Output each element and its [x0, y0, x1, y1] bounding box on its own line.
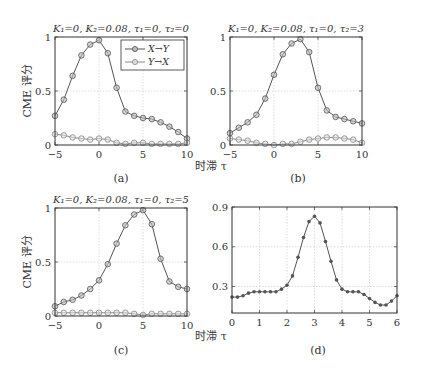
- data-point: [262, 141, 268, 147]
- xtick-label: 3: [311, 317, 317, 328]
- data-point: [390, 299, 394, 303]
- data-point: [291, 274, 295, 278]
- data-point: [384, 303, 388, 307]
- data-point: [149, 221, 155, 227]
- data-point: [70, 310, 76, 316]
- data-point: [158, 120, 164, 126]
- data-point: [306, 137, 312, 143]
- data-point: [175, 284, 181, 290]
- xtick-label: 5: [366, 317, 372, 328]
- data-point: [61, 97, 67, 103]
- data-point: [149, 116, 155, 122]
- ytick-label: 0.5: [210, 86, 226, 97]
- shared-xlabel-bottom: 时滞 τ: [195, 330, 227, 343]
- data-point: [315, 85, 321, 91]
- data-point: [346, 290, 350, 294]
- data-point: [70, 73, 76, 79]
- data-point: [298, 139, 304, 145]
- data-point: [324, 135, 330, 141]
- xtick-label: 0: [96, 149, 102, 160]
- data-point: [245, 120, 251, 126]
- data-point: [285, 283, 289, 287]
- data-point: [167, 279, 173, 285]
- ytick-label: 0: [45, 311, 51, 322]
- data-point: [258, 290, 262, 294]
- data-point: [318, 221, 322, 225]
- ytick-label: 0: [220, 140, 226, 151]
- xtick-label: 4: [339, 317, 345, 328]
- data-point: [70, 135, 76, 141]
- caption-d: (d): [310, 344, 326, 357]
- data-point: [79, 136, 85, 142]
- data-point: [236, 125, 242, 131]
- data-point: [262, 96, 268, 102]
- data-point: [342, 116, 348, 122]
- shared-xlabel-top: 时滞 τ: [195, 160, 227, 173]
- data-point: [131, 212, 137, 218]
- xtick-label: 5: [315, 149, 321, 160]
- data-point: [324, 108, 330, 114]
- data-point: [379, 303, 383, 307]
- xtick-label: 0: [271, 149, 277, 160]
- data-point: [333, 114, 339, 120]
- data-point: [131, 113, 137, 119]
- data-point: [96, 310, 102, 316]
- ytick-label: 0.9: [212, 202, 228, 213]
- data-point: [280, 287, 284, 291]
- panel-d: 01234560.30.60.9: [212, 202, 400, 329]
- xtick-label: 2: [284, 317, 290, 328]
- data-point: [280, 141, 286, 147]
- caption-b: (b): [290, 172, 306, 185]
- data-point: [114, 241, 120, 247]
- series-line: [55, 210, 187, 306]
- ytick-label: 0: [45, 140, 51, 151]
- data-point: [175, 141, 181, 147]
- data-point: [123, 310, 129, 316]
- data-point: [335, 278, 339, 282]
- data-point: [114, 310, 120, 316]
- data-point: [96, 136, 102, 142]
- ytick-label: 0.5: [35, 257, 51, 268]
- data-point: [123, 222, 129, 228]
- data-point: [271, 72, 277, 78]
- title-c: K₁=0, K₂=0.08, τ₁=0, τ₂=5: [52, 194, 189, 205]
- data-point: [105, 261, 111, 267]
- data-point: [158, 141, 164, 147]
- caption-a: (a): [113, 172, 128, 185]
- data-point: [149, 141, 155, 147]
- legend: X→Y Y→X: [121, 40, 184, 70]
- data-point: [96, 37, 102, 43]
- data-point: [302, 236, 306, 240]
- xtick-label: 10: [181, 320, 194, 331]
- data-point: [123, 109, 129, 115]
- xtick-label: −5: [48, 320, 63, 331]
- data-point: [362, 293, 366, 297]
- data-point: [340, 287, 344, 291]
- data-point: [105, 310, 111, 316]
- data-point: [274, 290, 278, 294]
- data-point: [105, 50, 111, 56]
- panel-c: −5051000.51: [35, 203, 193, 332]
- data-point: [167, 124, 173, 130]
- data-point: [350, 118, 356, 124]
- data-point: [350, 137, 356, 143]
- data-point: [175, 129, 181, 135]
- data-point: [87, 286, 93, 292]
- ytick-label: 0.3: [212, 281, 228, 292]
- data-point: [96, 278, 102, 284]
- data-point: [280, 51, 286, 57]
- data-point: [333, 135, 339, 141]
- legend-item-yx: Y→X: [148, 56, 170, 67]
- data-point: [247, 291, 251, 295]
- ytick-label: 1: [45, 32, 51, 43]
- data-point: [79, 310, 85, 316]
- title-a: K₁=0, K₂=0.08, τ₁=0, τ₂=0: [52, 23, 190, 34]
- data-point: [114, 85, 120, 91]
- data-point: [342, 136, 348, 142]
- data-point: [306, 49, 312, 55]
- data-point: [307, 220, 311, 224]
- ylabel-c: CME 评分: [21, 235, 34, 288]
- data-point: [329, 260, 333, 264]
- data-point: [252, 290, 256, 294]
- xtick-label: −5: [223, 149, 238, 160]
